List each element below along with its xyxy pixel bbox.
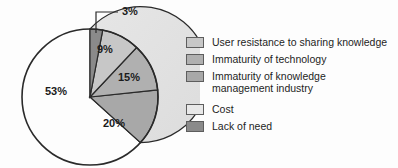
legend-item-cost[interactable]: Cost (186, 103, 398, 117)
pie-chart-figure: 53% 20% 15% 9% 3% User resistance to sha… (0, 0, 398, 168)
legend-label-immaturity-km-industry: Immaturity of knowledge management indus… (212, 70, 326, 94)
legend-item-immaturity-km-industry[interactable]: Immaturity of knowledge management indus… (186, 70, 398, 94)
legend-label-immaturity-technology: Immaturity of technology (212, 53, 326, 65)
legend-swatch-immaturity-km-industry (186, 71, 204, 82)
pie-label-3: 3% (122, 6, 138, 17)
legend-swatch-cost (186, 104, 204, 115)
pie-label-9: 9% (97, 44, 113, 55)
legend-swatch-lack-of-need (186, 121, 204, 132)
legend-item-immaturity-technology[interactable]: Immaturity of technology (186, 53, 398, 67)
legend-swatch-user-resistance (186, 37, 204, 48)
legend-item-lack-of-need[interactable]: Lack of need (186, 120, 398, 134)
legend-swatch-immaturity-technology (186, 54, 204, 65)
legend-label-user-resistance: User resistance to sharing knowledge (212, 36, 387, 48)
pie-label-15: 15% (118, 72, 140, 83)
pie-chart-plot-area: 53% 20% 15% 9% 3% (0, 0, 200, 168)
chart-legend: User resistance to sharing knowledge Imm… (186, 36, 398, 137)
pie-label-20: 20% (103, 118, 125, 129)
legend-label-lack-of-need: Lack of need (212, 120, 272, 132)
legend-label-cost: Cost (212, 103, 234, 115)
legend-item-user-resistance[interactable]: User resistance to sharing knowledge (186, 36, 398, 50)
pie-label-53: 53% (45, 86, 67, 97)
pie-chart-svg (0, 0, 200, 168)
